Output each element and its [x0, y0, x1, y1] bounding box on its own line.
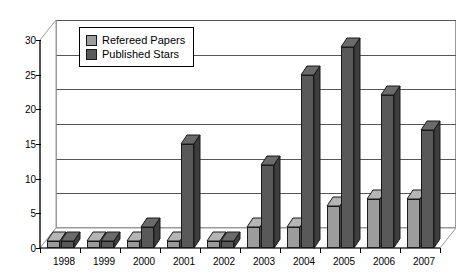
bar-refereed-papers-2002 — [207, 241, 220, 248]
bar-published-stars-2001 — [181, 144, 194, 248]
x-axis-tick-label: 2004 — [293, 256, 315, 267]
bar-published-stars-2002 — [221, 241, 234, 248]
x-axis-tick-label: 2006 — [373, 256, 395, 267]
bar-refereed-papers-2001 — [167, 241, 180, 248]
bar-refereed-papers-2003 — [247, 227, 260, 248]
legend-item: Published Stars — [86, 48, 185, 60]
bar-published-stars-2000 — [141, 227, 154, 248]
bar-published-stars-2006 — [381, 95, 394, 248]
bar-refereed-papers-2004 — [287, 227, 300, 248]
bar-published-stars-2004 — [301, 75, 314, 248]
x-axis-tick — [160, 248, 161, 253]
x-axis-tick — [120, 248, 121, 253]
x-axis-tick-label: 2002 — [213, 256, 235, 267]
bar-refereed-papers-2000 — [127, 241, 140, 248]
bar-refereed-papers-2005 — [327, 206, 340, 248]
x-axis-tick-label: 1999 — [93, 256, 115, 267]
bar-refereed-papers-2007 — [407, 199, 420, 248]
bar-published-stars-2005 — [341, 47, 354, 248]
x-axis-tick-label: 2001 — [173, 256, 195, 267]
x-axis-tick — [40, 248, 41, 253]
bar-published-stars-2003 — [261, 165, 274, 248]
x-axis-tick-label: 2005 — [333, 256, 355, 267]
x-axis-tick — [360, 248, 361, 253]
x-axis-tick — [440, 248, 441, 253]
legend-label-refereed-papers: Refereed Papers — [102, 34, 185, 46]
x-axis-tick — [200, 248, 201, 253]
bar-published-stars-2007 — [421, 130, 434, 248]
bar-published-stars-1999 — [101, 241, 114, 248]
x-axis-tick — [80, 248, 81, 253]
legend: Refereed Papers Published Stars — [79, 27, 194, 67]
bar-refereed-papers-1999 — [87, 241, 100, 248]
bar-published-stars-1998 — [61, 241, 74, 248]
bar-refereed-papers-2006 — [367, 199, 380, 248]
x-axis-tick — [400, 248, 401, 253]
bars-layer — [0, 0, 469, 275]
bar-chart: 051015202530 199819992000200120022003200… — [0, 0, 469, 275]
legend-swatch-refereed-papers — [86, 35, 97, 46]
x-axis-tick-label: 2007 — [413, 256, 435, 267]
x-axis-tick-label: 2003 — [253, 256, 275, 267]
x-axis-tick-label: 1998 — [53, 256, 75, 267]
x-axis-tick — [280, 248, 281, 253]
x-axis-tick — [240, 248, 241, 253]
legend-label-published-stars: Published Stars — [102, 48, 179, 60]
x-axis-tick — [320, 248, 321, 253]
legend-swatch-published-stars — [86, 49, 97, 60]
legend-item: Refereed Papers — [86, 34, 185, 46]
bar-refereed-papers-1998 — [47, 241, 60, 248]
x-axis-tick-label: 2000 — [133, 256, 155, 267]
